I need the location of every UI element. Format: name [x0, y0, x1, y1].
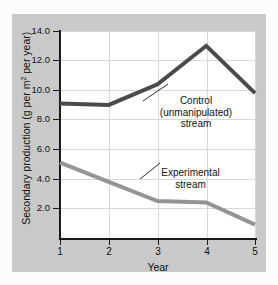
series-label-experimental-line2: stream: [143, 179, 238, 191]
series-canvas: [0, 0, 278, 285]
series-label-control: Control (unmanipulated) stream: [146, 95, 246, 130]
series-label-control-line3: stream: [146, 118, 246, 130]
series-label-control-line1: Control: [146, 95, 246, 107]
series-label-experimental-line1: Experimental: [143, 167, 238, 179]
series-label-control-line2: (unmanipulated): [146, 107, 246, 119]
series-label-experimental: Experimental stream: [143, 167, 238, 190]
chart-figure: 14.0 12.0 10.0 8.0 6.0 4.0 2.0 1 2 3 4 5…: [0, 0, 278, 285]
